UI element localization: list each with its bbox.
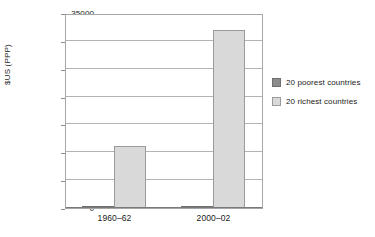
plot-area <box>65 14 263 209</box>
legend-swatch-richest <box>272 97 281 106</box>
legend-item-poorest: 20 poorest countries <box>272 76 374 89</box>
bar-chart: $US (PPP) 050001000015000200002500030000… <box>0 0 375 237</box>
chart-legend: 20 poorest countries 20 richest countrie… <box>272 76 374 114</box>
x-tick-label: 1960–62 <box>65 213 164 223</box>
legend-item-richest: 20 richest countries <box>272 95 374 108</box>
legend-label-richest: 20 richest countries <box>286 97 357 106</box>
bar <box>114 146 146 208</box>
y-axis-title: $US (PPP) <box>3 44 12 85</box>
bar <box>213 30 245 208</box>
legend-swatch-poorest <box>272 78 281 87</box>
x-axis-baseline <box>66 207 262 208</box>
x-tick-label: 2000–02 <box>164 213 263 223</box>
legend-label-poorest: 20 poorest countries <box>286 78 361 87</box>
y-tick-mark <box>61 209 65 210</box>
